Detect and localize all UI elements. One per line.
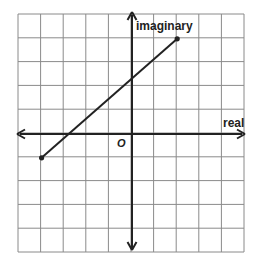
line-segment — [39, 36, 180, 160]
segment-end-point — [175, 36, 180, 41]
complex-plane-diagram: imaginary real O — [0, 0, 254, 266]
imaginary-axis — [128, 12, 137, 250]
real-axis-label: real — [223, 116, 244, 130]
imaginary-axis-label: imaginary — [136, 19, 193, 33]
segment-start-point — [39, 155, 44, 160]
origin-label: O — [117, 137, 126, 149]
